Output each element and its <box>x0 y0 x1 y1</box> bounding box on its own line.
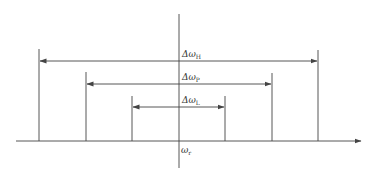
bandwidth-diagram: ΔωH ΔωP ΔωL ωr <box>0 0 374 175</box>
band-l: ΔωL <box>132 95 225 141</box>
band-h: ΔωH <box>39 49 318 141</box>
band-l-label: ΔωL <box>181 95 200 106</box>
band-p-label: ΔωP <box>181 72 200 83</box>
center-frequency-label: ωr <box>181 145 191 156</box>
band-h-label: ΔωH <box>181 49 201 60</box>
